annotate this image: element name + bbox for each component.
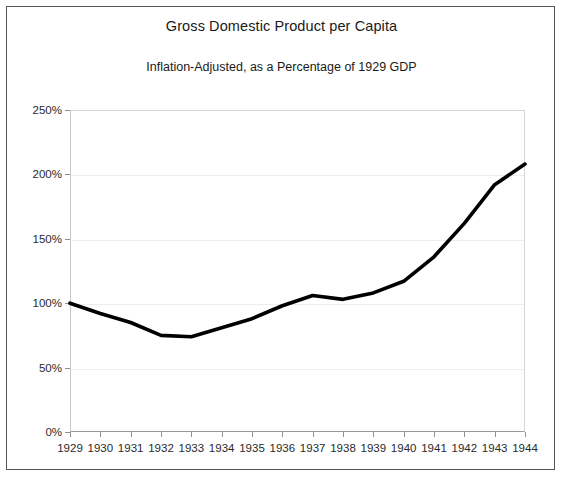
x-tick-mark bbox=[191, 432, 192, 437]
x-tick-mark bbox=[343, 432, 344, 437]
y-tick-label-200%: 200% bbox=[4, 168, 62, 180]
y-tick-mark bbox=[65, 110, 70, 111]
y-tick-label-150%: 150% bbox=[4, 233, 62, 245]
gridline-y-150% bbox=[71, 240, 524, 241]
chart-title: Gross Domestic Product per Capita bbox=[0, 18, 563, 34]
x-tick-mark bbox=[222, 432, 223, 437]
y-tick-label-250%: 250% bbox=[4, 104, 62, 116]
x-tick-mark bbox=[70, 432, 71, 437]
y-tick-label-100%: 100% bbox=[4, 297, 62, 309]
x-tick-mark bbox=[404, 432, 405, 437]
x-tick-label-1930: 1930 bbox=[88, 442, 114, 454]
gridline-y-50% bbox=[71, 369, 524, 370]
y-tick-mark bbox=[65, 368, 70, 369]
x-tick-mark bbox=[131, 432, 132, 437]
x-tick-mark bbox=[313, 432, 314, 437]
x-tick-mark bbox=[525, 432, 526, 437]
x-tick-mark bbox=[464, 432, 465, 437]
x-tick-mark bbox=[100, 432, 101, 437]
y-tick-mark bbox=[65, 239, 70, 240]
chart-subtitle: Inflation-Adjusted, as a Percentage of 1… bbox=[0, 60, 563, 74]
x-tick-label-1944: 1944 bbox=[512, 442, 538, 454]
x-tick-label-1934: 1934 bbox=[209, 442, 235, 454]
x-tick-mark bbox=[373, 432, 374, 437]
x-tick-label-1935: 1935 bbox=[239, 442, 265, 454]
x-tick-mark bbox=[161, 432, 162, 437]
x-tick-label-1939: 1939 bbox=[361, 442, 387, 454]
x-tick-mark bbox=[282, 432, 283, 437]
x-tick-mark bbox=[495, 432, 496, 437]
x-tick-mark bbox=[252, 432, 253, 437]
y-tick-mark bbox=[65, 174, 70, 175]
x-tick-label-1941: 1941 bbox=[421, 442, 447, 454]
y-tick-label-50%: 50% bbox=[4, 362, 62, 374]
gridline-y-100% bbox=[71, 304, 524, 305]
x-tick-label-1940: 1940 bbox=[391, 442, 417, 454]
x-tick-label-1933: 1933 bbox=[179, 442, 205, 454]
x-tick-label-1943: 1943 bbox=[482, 442, 508, 454]
x-tick-label-1932: 1932 bbox=[148, 442, 174, 454]
x-tick-label-1931: 1931 bbox=[118, 442, 144, 454]
x-tick-label-1942: 1942 bbox=[452, 442, 478, 454]
y-tick-label-0%: 0% bbox=[4, 426, 62, 438]
x-tick-label-1936: 1936 bbox=[270, 442, 296, 454]
x-tick-label-1929: 1929 bbox=[57, 442, 83, 454]
chart-figure: Gross Domestic Product per Capita Inflat… bbox=[0, 0, 563, 483]
plot-area bbox=[70, 110, 525, 432]
y-tick-mark bbox=[65, 303, 70, 304]
x-tick-mark bbox=[434, 432, 435, 437]
x-tick-label-1937: 1937 bbox=[300, 442, 326, 454]
x-tick-label-1938: 1938 bbox=[330, 442, 356, 454]
gridline-y-200% bbox=[71, 175, 524, 176]
